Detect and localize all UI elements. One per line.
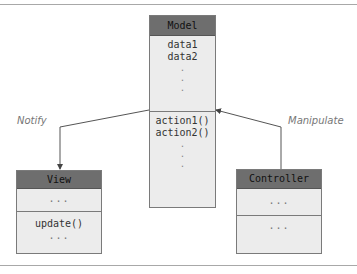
model-method-dot: . (150, 139, 215, 149)
model-method: action1() (150, 115, 215, 127)
model-attr: data2 (150, 51, 215, 63)
view-header: View (17, 171, 101, 189)
view-method: ... (17, 230, 101, 242)
model-methods: action1() action2() . . . (150, 111, 215, 207)
controller-attributes: ... (237, 189, 321, 215)
controller-method: ... (237, 220, 321, 232)
notify-edge (60, 110, 149, 169)
model-method-dot: . (150, 149, 215, 159)
view-methods: update() ... (17, 211, 101, 253)
model-attr-dot: . (150, 63, 215, 73)
model-attr: data1 (150, 39, 215, 51)
manipulate-label: Manipulate (288, 115, 344, 126)
manipulate-edge (216, 110, 281, 169)
controller-attr: ... (268, 195, 289, 206)
view-attr: ... (48, 193, 69, 204)
model-attr-dot: . (150, 73, 215, 83)
controller-class-box: Controller ... ... (236, 169, 322, 254)
model-attr-dot: . (150, 83, 215, 93)
model-method-dot: . (150, 159, 215, 169)
controller-methods: ... (237, 215, 321, 253)
model-header: Model (150, 16, 215, 36)
controller-header: Controller (237, 170, 321, 189)
model-class-box: Model data1 data2 . . . action1() action… (149, 15, 216, 208)
view-method: update() (17, 218, 101, 230)
model-attributes: data1 data2 . . . (150, 36, 215, 111)
view-attributes: ... (17, 189, 101, 211)
model-method: action2() (150, 127, 215, 139)
notify-label: Notify (17, 115, 47, 126)
view-class-box: View ... update() ... (16, 170, 102, 254)
